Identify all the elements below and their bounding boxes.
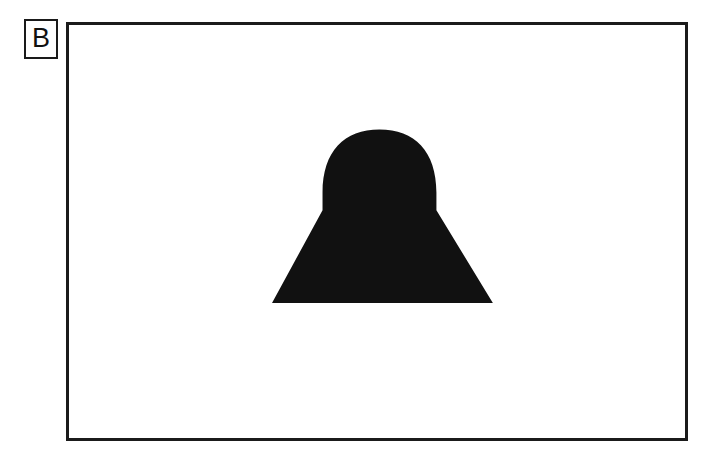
panel-label-box: B — [24, 19, 58, 59]
figure-canvas — [69, 25, 685, 438]
stimulus-frame — [66, 22, 688, 441]
bell-silhouette-shape — [272, 129, 493, 302]
panel-label-letter: B — [32, 25, 50, 54]
